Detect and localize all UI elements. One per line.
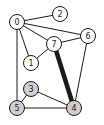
node-label: 1 xyxy=(28,59,33,68)
edge-6-4 xyxy=(74,36,88,108)
node-label: 4 xyxy=(71,104,76,113)
node-label: 6 xyxy=(85,32,90,41)
edge-7-4 xyxy=(54,44,74,108)
node-5: 5 xyxy=(10,101,25,116)
node-2: 2 xyxy=(53,7,68,22)
node-6: 6 xyxy=(81,29,96,44)
node-label: 0 xyxy=(14,18,19,27)
node-3: 3 xyxy=(24,82,39,97)
node-7: 7 xyxy=(47,37,62,52)
node-1: 1 xyxy=(24,56,39,71)
node-label: 5 xyxy=(14,104,19,113)
graph-diagram: 01234567 xyxy=(0,0,104,125)
node-label: 3 xyxy=(28,85,33,94)
node-label: 2 xyxy=(57,10,62,19)
node-0: 0 xyxy=(10,15,25,30)
node-layer: 01234567 xyxy=(10,7,96,116)
node-4: 4 xyxy=(67,101,82,116)
edge-0-6 xyxy=(17,22,88,36)
node-label: 7 xyxy=(51,40,56,49)
